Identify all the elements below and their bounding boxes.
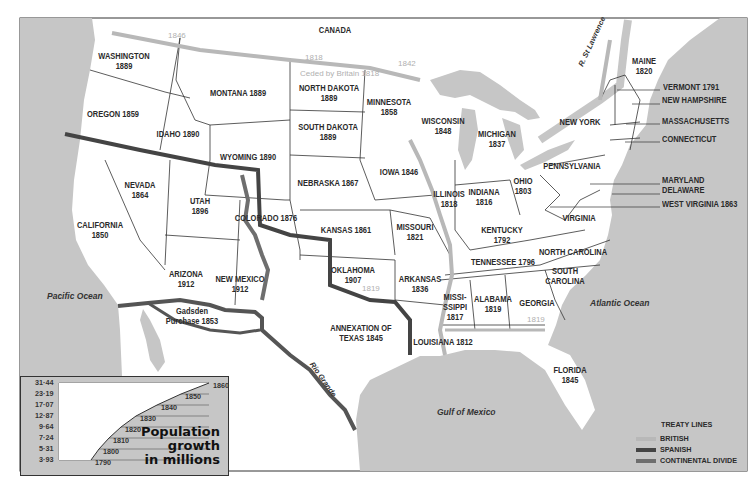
state-label-washington: WASHINGTON 1889 bbox=[89, 51, 159, 71]
legend-label: SPANISH bbox=[660, 445, 691, 454]
y-tick-label: 9·64 bbox=[27, 422, 54, 431]
state-label-tennessee: TENNESSEE 1796 bbox=[468, 257, 538, 267]
treaty-year-label: 1819 bbox=[527, 315, 545, 324]
callout-label: CONNECTICUT bbox=[662, 134, 716, 144]
state-label-florida: FLORIDA 1845 bbox=[535, 365, 605, 385]
treaty-year-label: Ceded by Britain 1818 bbox=[300, 69, 379, 78]
callout-label: MARYLAND bbox=[662, 175, 705, 185]
state-label-california: CALIFORNIA 1850 bbox=[65, 220, 135, 240]
state-label-nebraska: NEBRASKA 1867 bbox=[293, 178, 363, 188]
state-label-new-mexico: NEW MEXICO 1912 bbox=[205, 274, 275, 294]
treaty-lines-legend: TREATY LINES BRITISH SPANISH CONTINENTAL… bbox=[636, 420, 746, 466]
callout-label: NEW HAMPSHIRE bbox=[662, 95, 726, 105]
state-label-kansas: KANSAS 1861 bbox=[311, 225, 381, 235]
state-label-gadsden: Gadsden Purchase 1853 bbox=[157, 306, 227, 326]
decade-label: 1840 bbox=[161, 403, 177, 412]
state-label-maine: MAINE 1820 bbox=[609, 56, 679, 76]
treaty-year-label: 1842 bbox=[398, 59, 416, 68]
inset-title-line-3: in millions bbox=[141, 453, 220, 467]
decade-label: 1820 bbox=[125, 425, 141, 434]
state-label-new-york: NEW YORK bbox=[545, 117, 615, 127]
state-label-utah: UTAH 1896 bbox=[165, 196, 235, 216]
state-label-south-dakota: SOUTH DAKOTA 1889 bbox=[293, 122, 363, 142]
state-label-south-carolina: SOUTH CAROLINA bbox=[530, 266, 600, 286]
state-label-canada: CANADA bbox=[300, 25, 370, 35]
state-label-ohio: OHIO 1803 bbox=[488, 176, 558, 196]
british-swatch-icon bbox=[636, 437, 656, 441]
inset-title-line-2: growth bbox=[141, 439, 220, 453]
state-label-virginia: VIRGINIA bbox=[544, 213, 614, 223]
state-label-georgia: GEORGIA bbox=[502, 298, 572, 308]
y-tick-label: 12·87 bbox=[27, 411, 54, 420]
y-tick-label: 7·24 bbox=[27, 433, 54, 442]
state-label-pennsylvania: PENNSYLVANIA bbox=[537, 161, 607, 171]
callout-label: VERMONT 1791 bbox=[663, 82, 719, 92]
state-label-colorado: COLORADO 1876 bbox=[231, 213, 301, 223]
ocean-label-pacific: Pacific Ocean bbox=[47, 291, 103, 301]
state-label-iowa: IOWA 1846 bbox=[364, 167, 434, 177]
y-tick-label: 23·19 bbox=[27, 389, 54, 398]
y-tick-label: 5·31 bbox=[27, 444, 54, 453]
state-label-louisiana: LOUISIANA 1812 bbox=[408, 337, 478, 347]
inset-title-line-1: Population bbox=[141, 425, 220, 439]
ocean-label-gulf: Gulf of Mexico bbox=[437, 407, 496, 417]
legend-item-spanish: SPANISH bbox=[636, 444, 746, 455]
inset-title: Population growth in millions bbox=[141, 425, 220, 467]
decade-label: 1850 bbox=[185, 392, 201, 401]
decade-label: 1790 bbox=[95, 458, 111, 467]
y-tick-label: 17·07 bbox=[27, 400, 54, 409]
legend-label: BRITISH bbox=[660, 434, 689, 443]
decade-label: 1810 bbox=[113, 436, 129, 445]
state-label-kentucky: KENTUCKY 1792 bbox=[467, 225, 537, 245]
state-label-texas: ANNEXATION OF TEXAS 1845 bbox=[326, 323, 396, 343]
state-label-michigan: MICHIGAN 1837 bbox=[462, 129, 532, 149]
treaty-year-label: 1846 bbox=[168, 31, 186, 40]
callout-label: WEST VIRGINIA 1863 bbox=[662, 199, 737, 209]
decade-label: 1860 bbox=[213, 381, 229, 390]
y-tick-label: 3·93 bbox=[27, 455, 54, 464]
callout-label: MASSACHUSETTS bbox=[662, 116, 729, 126]
legend-title: TREATY LINES bbox=[661, 420, 738, 429]
legend-item-british: BRITISH bbox=[636, 433, 746, 444]
callout-label: DELAWARE bbox=[662, 185, 704, 195]
y-tick-label: 31·44 bbox=[27, 378, 54, 387]
decade-label: 1830 bbox=[140, 414, 156, 423]
state-label-missouri: MISSOURI 1821 bbox=[380, 222, 450, 242]
decade-label: 1800 bbox=[103, 447, 119, 456]
treaty-year-label: 1818 bbox=[305, 53, 323, 62]
state-label-montana: MONTANA 1889 bbox=[203, 88, 273, 98]
state-label-wyoming: WYOMING 1890 bbox=[213, 152, 283, 162]
state-label-oklahoma: OKLAHOMA 1907 bbox=[318, 265, 388, 285]
state-label-idaho: IDAHO 1890 bbox=[143, 129, 213, 139]
spanish-swatch-icon bbox=[636, 448, 656, 452]
legend-label: CONTINENTAL DIVIDE bbox=[660, 456, 737, 465]
population-inset-chart: 31·4423·1917·0712·879·647·245·313·93 179… bbox=[20, 376, 229, 476]
ocean-label-atlantic: Atlantic Ocean bbox=[590, 298, 650, 308]
state-label-oregon: OREGON 1859 bbox=[78, 109, 148, 119]
state-label-arkansas: ARKANSAS 1836 bbox=[385, 274, 455, 294]
legend-item-continental-divide: CONTINENTAL DIVIDE bbox=[636, 455, 746, 466]
treaty-year-label: 1819 bbox=[362, 284, 380, 293]
divide-swatch-icon bbox=[636, 459, 656, 463]
state-label-minnesota: MINNESOTA 1858 bbox=[354, 97, 424, 117]
state-label-north-carolina: NORTH CAROLINA bbox=[538, 247, 608, 257]
